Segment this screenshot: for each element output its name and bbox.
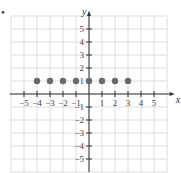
x-tick-label: −3 <box>45 98 55 108</box>
x-axis-arrow-icon <box>170 92 175 96</box>
y-tick-label: 2 <box>80 63 85 73</box>
problem-bullet: • <box>1 6 5 18</box>
data-point <box>34 78 40 84</box>
x-tick-label: 4 <box>139 98 144 108</box>
x-tick-label: −4 <box>32 98 42 108</box>
y-axis-label: y <box>81 6 87 17</box>
y-tick-label: 1 <box>80 76 85 86</box>
y-tick-label: −1 <box>74 102 84 112</box>
x-tick-label: 1 <box>100 98 105 108</box>
data-point <box>86 78 92 84</box>
x-tick-label: 3 <box>126 98 131 108</box>
y-tick-label: −5 <box>74 154 84 164</box>
y-axis-arrow-icon <box>87 11 91 16</box>
x-tick-label: 5 <box>152 98 157 108</box>
data-point <box>112 78 118 84</box>
data-point <box>60 78 66 84</box>
y-tick-label: −2 <box>74 115 84 125</box>
y-tick-label: 5 <box>80 24 85 34</box>
x-axis-label: x <box>175 94 181 105</box>
data-point <box>47 78 53 84</box>
coordinate-plane: •xy−5−4−3−2−112345−5−4−3−2−112345 <box>0 0 181 173</box>
y-tick-label: −3 <box>74 128 84 138</box>
data-point <box>99 78 105 84</box>
x-tick-label: 2 <box>113 98 118 108</box>
x-tick-label: −5 <box>19 98 29 108</box>
y-tick-label: 4 <box>80 37 85 47</box>
data-point <box>125 78 131 84</box>
y-tick-label: 3 <box>80 50 85 60</box>
x-tick-label: −2 <box>58 98 68 108</box>
y-tick-label: −4 <box>74 141 84 151</box>
data-point <box>73 78 79 84</box>
